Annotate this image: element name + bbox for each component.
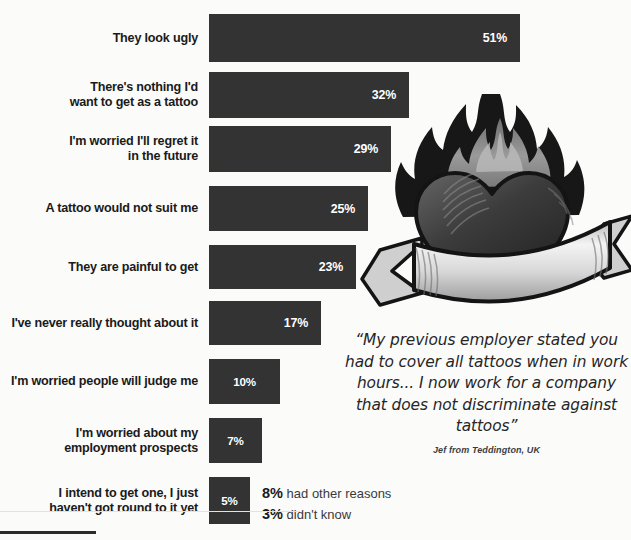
bar-category-label-line: haven't got round to it yet	[0, 501, 198, 516]
bar-category-label-line: There's nothing I'd	[0, 80, 198, 95]
testimonial-quote: “My previous employer stated you had to …	[342, 330, 631, 455]
bar-category-label-line: I'm worried I'll regret it	[0, 134, 198, 149]
bar: 5%	[209, 477, 250, 524]
bottom-rule	[0, 531, 96, 534]
bar-value-label: 32%	[372, 88, 409, 102]
footnote-list: 8% had other reasons3% didn't know	[262, 483, 502, 525]
bar-category-label: I'm worried people will judge me	[0, 374, 198, 389]
bar-wrapper: 10%	[209, 359, 280, 404]
footnote-text: didn't know	[283, 507, 351, 522]
bar: 25%	[209, 186, 368, 231]
bar-value-label: 10%	[209, 375, 280, 388]
bar-value-label: 25%	[331, 202, 368, 216]
bar: 51%	[209, 14, 520, 62]
footnote-percent: 8%	[262, 485, 283, 501]
bar: 17%	[209, 301, 321, 345]
bar-wrapper: 32%	[209, 72, 409, 118]
footnote-text: had other reasons	[283, 486, 391, 501]
bar-category-label-line: I'm worried people will judge me	[0, 374, 198, 389]
bar: 10%	[209, 359, 280, 404]
footnote-item: 3% didn't know	[262, 504, 502, 525]
bar-value-label: 51%	[483, 31, 520, 45]
bar-row: A tattoo would not suit me25%	[0, 186, 631, 231]
bar: 23%	[209, 245, 356, 289]
bar-category-label-line: They are painful to get	[0, 260, 198, 275]
bar-category-label: They are painful to get	[0, 260, 198, 275]
bar: 32%	[209, 72, 409, 118]
bar-category-label-line: want to get as a tattoo	[0, 95, 198, 110]
bar-value-label: 17%	[284, 316, 321, 330]
bar-wrapper: 7%	[209, 418, 262, 463]
bar-category-label: There's nothing I'dwant to get as a tatt…	[0, 80, 198, 110]
bar-category-label-line: I'm worried about my	[0, 426, 198, 441]
bar: 7%	[209, 418, 262, 463]
bar-wrapper: 25%	[209, 186, 368, 231]
bar-category-label-line: employment prospects	[0, 441, 198, 456]
bar-value-label: 23%	[319, 260, 356, 274]
bar-category-label: A tattoo would not suit me	[0, 201, 198, 216]
bar-row: They look ugly51%	[0, 14, 631, 62]
bar-category-label-line: in the future	[0, 149, 198, 164]
bar-row: I'm worried I'll regret itin the future2…	[0, 126, 631, 172]
bar-category-label: I'm worried about myemployment prospects	[0, 426, 198, 456]
bar-wrapper: 23%	[209, 245, 356, 289]
bar-value-label: 7%	[209, 434, 262, 447]
bar-row: They are painful to get23%	[0, 245, 631, 289]
bar-category-label: I'm worried I'll regret itin the future	[0, 134, 198, 164]
bar-value-label: 5%	[209, 494, 250, 507]
bar-wrapper: 5%	[209, 477, 250, 524]
bar-row: There's nothing I'dwant to get as a tatt…	[0, 72, 631, 118]
bar-wrapper: 17%	[209, 301, 321, 345]
bar-value-label: 29%	[354, 142, 391, 156]
footnote-percent: 3%	[262, 506, 283, 522]
bar-category-label-line: I've never really thought about it	[0, 316, 198, 331]
bar-category-label-line: A tattoo would not suit me	[0, 201, 198, 216]
bar-category-label: I've never really thought about it	[0, 316, 198, 331]
quote-text: “My previous employer stated you had to …	[342, 330, 631, 438]
bar-wrapper: 29%	[209, 126, 391, 172]
quote-author: Jef from Teddington, UK	[342, 445, 631, 455]
bar-category-label-line: They look ugly	[0, 31, 198, 46]
bar-category-label-line: I intend to get one, I just	[0, 486, 198, 501]
bar-wrapper: 51%	[209, 14, 520, 62]
bar: 29%	[209, 126, 391, 172]
bar-category-label: They look ugly	[0, 31, 198, 46]
horizontal-bar-chart: They look ugly51%There's nothing I'dwant…	[0, 0, 631, 540]
page-edge-line	[0, 511, 300, 512]
footnote-item: 8% had other reasons	[262, 483, 502, 504]
tattoo-survey-infographic: They look ugly51%There's nothing I'dwant…	[0, 0, 631, 540]
